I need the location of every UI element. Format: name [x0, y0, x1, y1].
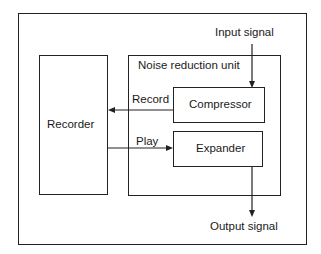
connector-arrows: [0, 0, 321, 254]
